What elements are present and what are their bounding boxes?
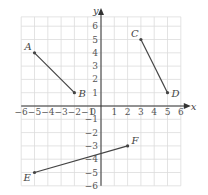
- y-axis-arrow-icon: [98, 8, 104, 15]
- point-A: [33, 51, 36, 54]
- y-tick-label: 1: [92, 88, 98, 98]
- x-tick-label: −4: [41, 107, 55, 117]
- point-E: [33, 171, 36, 174]
- y-tick-label: 3: [92, 61, 98, 71]
- y-tick-label: 5: [92, 35, 98, 45]
- point-label-E: E: [23, 172, 32, 183]
- x-tick-label: −2: [68, 107, 81, 117]
- x-tick-label: 5: [165, 107, 171, 117]
- y-tick-label: 4: [92, 48, 98, 58]
- y-tick-label: 2: [92, 74, 98, 84]
- point-label-B: B: [77, 88, 85, 99]
- point-D: [166, 91, 169, 94]
- x-tick-label: 1: [111, 107, 117, 117]
- point-label-C: C: [131, 28, 139, 39]
- x-tick-label: −3: [54, 107, 68, 117]
- point-label-D: D: [171, 88, 180, 99]
- y-axis-label: y: [92, 5, 99, 16]
- y-tick-label: −3: [85, 141, 99, 151]
- coordinate-grid: xy −6−5−4−3−2−10123456−6−5−4−3−2−1123456…: [0, 0, 208, 195]
- y-tick-label: −5: [85, 168, 99, 178]
- x-tick-label: −6: [15, 107, 29, 117]
- point-F: [126, 144, 129, 147]
- x-tick-label: 4: [151, 107, 157, 117]
- point-B: [73, 91, 76, 94]
- x-tick-label: 2: [125, 107, 131, 117]
- point-label-F: F: [131, 135, 140, 146]
- x-tick-label: −5: [28, 107, 42, 117]
- point-label-A: A: [24, 41, 32, 52]
- x-tick-label: 6: [178, 107, 184, 117]
- y-tick-label: 6: [92, 21, 98, 31]
- x-axis-label: x: [191, 101, 197, 112]
- y-tick-label: −2: [85, 128, 98, 138]
- point-C: [139, 38, 142, 41]
- x-axis-arrow-icon: [184, 103, 191, 109]
- y-tick-label: −6: [85, 181, 99, 191]
- y-tick-label: −1: [85, 114, 98, 124]
- x-tick-label: 3: [138, 107, 144, 117]
- segment-AB: [35, 53, 75, 93]
